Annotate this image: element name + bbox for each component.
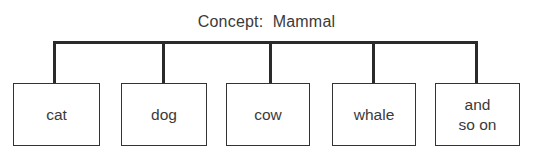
connector-stem-and-so-on (475, 41, 478, 84)
connector-stem-dog (162, 41, 165, 84)
concept-title: Concept: Mammal (0, 13, 533, 31)
instance-label: dog (151, 105, 177, 125)
connector-stem-cow (269, 41, 272, 84)
instance-box-dog: dog (121, 83, 207, 146)
instance-label: cow (254, 105, 282, 125)
connector-stem-whale (372, 41, 375, 84)
instance-label: cat (46, 105, 67, 125)
instance-label: and so on (459, 95, 497, 135)
instance-box-cat: cat (13, 83, 100, 146)
connector-horizontal-line (53, 41, 478, 44)
connector-stem-cat (53, 41, 56, 84)
instance-box-and-so-on: and so on (435, 83, 520, 146)
instance-box-cow: cow (226, 83, 310, 146)
instance-box-whale: whale (332, 83, 416, 146)
instance-label: whale (354, 105, 395, 125)
